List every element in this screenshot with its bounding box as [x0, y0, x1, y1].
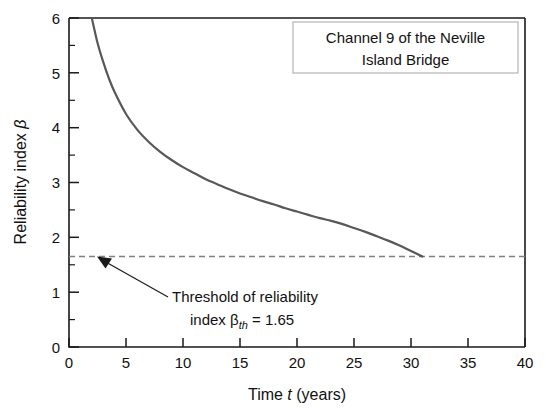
y-axis-title-symbol: β: [12, 120, 29, 130]
x-axis-title-post: (years): [292, 386, 346, 403]
x-tick-label: 25: [346, 354, 363, 371]
threshold-label-pre: index: [190, 311, 230, 328]
x-tick-label: 5: [122, 354, 130, 371]
threshold-annotation-text: Threshold of reliability index βth = 1.6…: [172, 288, 318, 331]
arrow-head-icon: [97, 257, 112, 269]
x-axis-title: Time t (years): [248, 386, 346, 403]
x-tick-label: 40: [517, 354, 534, 371]
x-tick-label: 0: [65, 354, 73, 371]
y-tick-label: 6: [52, 10, 60, 27]
y-tick-label: 0: [52, 339, 60, 356]
x-tick-label: 35: [460, 354, 477, 371]
y-tick-label: 5: [52, 65, 60, 82]
y-tick-label: 2: [52, 229, 60, 246]
y-tick-label: 3: [52, 174, 60, 191]
threshold-annotation-arrow: [97, 257, 168, 298]
y-axis-title: Reliability index β: [12, 120, 29, 245]
x-axis-tick-labels: 0 5 10 15 20 25 30 35 40: [65, 354, 534, 371]
x-tick-label: 10: [175, 354, 192, 371]
beta-symbol: β: [230, 311, 239, 328]
beta-subscript: th: [239, 319, 248, 331]
title-box-line2: Island Bridge: [362, 51, 450, 68]
y-axis-tick-labels: 0 1 2 3 4 5 6: [52, 10, 60, 356]
x-tick-label: 30: [403, 354, 420, 371]
chart-title-box: Channel 9 of the Neville Island Bridge: [293, 22, 518, 73]
reliability-index-chart-figure: 0 1 2 3 4 5 6 0 5 10 15 20 25 30 35 40 T…: [0, 0, 546, 418]
threshold-label-line2: index βth = 1.65: [190, 311, 294, 331]
x-axis-major-ticks: [69, 338, 525, 347]
threshold-label-post: = 1.65: [248, 311, 294, 328]
x-axis-title-pre: Time: [248, 386, 287, 403]
y-axis-title-pre: Reliability index: [12, 129, 29, 245]
x-tick-label: 20: [289, 354, 306, 371]
x-tick-label: 15: [232, 354, 249, 371]
threshold-label-line1: Threshold of reliability: [172, 288, 318, 305]
y-tick-label: 1: [52, 284, 60, 301]
y-tick-label: 4: [52, 119, 60, 136]
y-axis-major-ticks: [69, 18, 79, 347]
title-box-line1: Channel 9 of the Neville: [326, 29, 485, 46]
chart-canvas: 0 1 2 3 4 5 6 0 5 10 15 20 25 30 35 40 T…: [0, 0, 546, 418]
